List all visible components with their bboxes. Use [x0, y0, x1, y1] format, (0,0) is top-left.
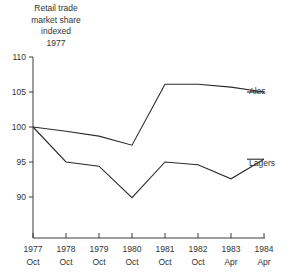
x-tick-month-1980: Oct [125, 257, 139, 267]
y-tick-label-110: 110 [12, 52, 26, 62]
series-label-ales: Ales [249, 86, 266, 96]
y-tick-label-105: 105 [12, 87, 26, 97]
y-tick-label-90: 90 [17, 192, 27, 202]
x-tick-year-1984: 1984 [255, 244, 274, 254]
series-line-ales [33, 84, 264, 145]
x-tick-month-1981: Oct [158, 257, 172, 267]
series-label-lagers: Lagers [249, 158, 275, 168]
x-tick-year-1981: 1981 [156, 244, 175, 254]
x-tick-month-1983: Apr [224, 257, 237, 267]
y-tick-label-95: 95 [17, 157, 27, 167]
x-tick-month-1979: Oct [92, 257, 106, 267]
x-tick-year-1982: 1982 [189, 244, 208, 254]
x-tick-year-1983: 1983 [222, 244, 241, 254]
x-tick-month-1977: Oct [26, 257, 40, 267]
x-tick-year-1977: 1977 [24, 244, 43, 254]
x-tick-year-1978: 1978 [57, 244, 76, 254]
line-chart-plot: 110 105 100 95 90 1977 1978 1979 1980 19… [0, 0, 290, 275]
y-tick-label-100: 100 [12, 122, 26, 132]
x-tick-month-1984: Apr [257, 257, 270, 267]
series-line-lagers [33, 127, 264, 198]
x-tick-year-1980: 1980 [123, 244, 142, 254]
chart-container: Retail trade market share indexed 1977 1… [0, 0, 290, 275]
x-tick-month-1978: Oct [59, 257, 73, 267]
x-tick-month-1982: Oct [191, 257, 205, 267]
x-tick-year-1979: 1979 [90, 244, 109, 254]
